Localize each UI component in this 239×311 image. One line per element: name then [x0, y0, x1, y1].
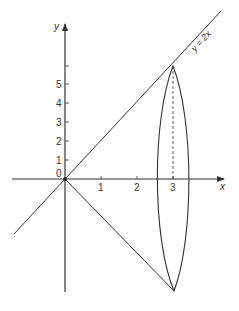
- y-tick-label-5: 5: [56, 79, 62, 90]
- origin-label: 0: [56, 168, 62, 179]
- y-tick-label-2: 2: [56, 136, 62, 147]
- x-tick-label-1: 1: [98, 182, 104, 193]
- x-tick-label-2: 2: [134, 182, 140, 193]
- x-tick-label-3: 3: [170, 182, 176, 193]
- y-tick-label-3: 3: [56, 117, 62, 128]
- cone-diagram: y x 0 1 2 3 1 2 3 4 5 y = 2x: [0, 0, 239, 311]
- y-tick-label-1: 1: [56, 155, 62, 166]
- x-axis-label: x: [219, 181, 226, 192]
- y-tick-label-4: 4: [56, 98, 62, 109]
- origin-point: [63, 177, 67, 181]
- y-axis-label: y: [53, 21, 60, 32]
